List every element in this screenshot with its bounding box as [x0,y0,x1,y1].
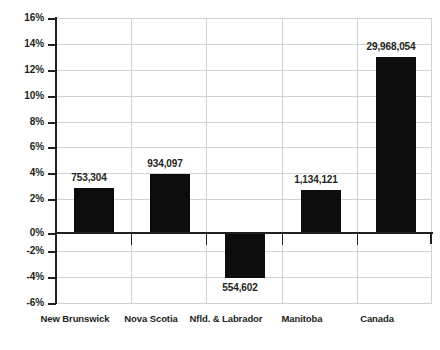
gridline-vertical [431,18,432,303]
bar-canada [376,57,416,233]
y-axis-tick-label: 10% [4,91,44,101]
y-axis-tick-label: -4% [4,272,44,282]
bar-new-brunswick [74,188,114,233]
gridline-vertical [282,18,283,303]
bar-value-new-brunswick: 753,304 [34,172,144,183]
y-axis-tick-label: 6% [4,142,44,152]
bar-nfld-labrador [225,233,265,278]
bar-value-manitoba: 1,134,121 [261,174,371,185]
gridline-horizontal [56,18,432,19]
x-axis-tick [282,234,283,245]
y-axis-tick-label: 16% [4,13,44,23]
bar-value-nova-scotia: 934,097 [110,158,220,169]
x-axis-tick [131,234,132,245]
y-axis-tick-label: 12% [4,65,44,75]
y-axis-tick-label: 2% [4,194,44,204]
y-axis-tick-label: -6% [4,298,44,308]
x-axis-label-canada: Canada [321,313,433,324]
gridline-vertical [357,18,358,303]
x-axis-tick [206,234,207,245]
bar-value-nfld-labrador: 554,602 [185,282,295,293]
y-axis-tick-label: -2% [4,246,44,256]
gridline-horizontal [56,303,432,304]
x-axis-tick [357,234,358,245]
bar-manitoba [301,190,341,233]
y-axis-line [55,17,57,304]
bar-value-canada: 29,968,054 [336,41,440,52]
y-axis-tick-label: 14% [4,39,44,49]
y-axis-tick-label: 8% [4,117,44,127]
bar-chart: 16% 14% 12% 10% 8% 6% 4% 2% 0% -2% -4% -… [0,0,440,350]
bar-nova-scotia [150,174,190,233]
y-axis-tick-label: 0% [4,228,44,238]
x-axis-end-cap [430,233,432,244]
zero-axis-line [56,232,433,234]
